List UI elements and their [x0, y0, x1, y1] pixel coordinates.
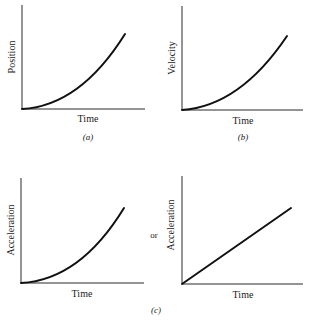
panel-a: Position Time (a) [6, 5, 145, 142]
acceleration-line [182, 208, 291, 284]
position-curve [22, 34, 125, 109]
acceleration-curve [21, 208, 124, 283]
y-axis-label: Acceleration [165, 199, 176, 250]
x-axis-label: Time [233, 115, 254, 126]
y-axis-label: Velocity [166, 41, 177, 74]
kinematics-figure: Position Time (a) Velocity Time (b) Acce… [0, 0, 310, 323]
panel-b: Velocity Time (b) [166, 6, 303, 142]
y-axis-label: Position [6, 41, 17, 74]
caption-b: (b) [238, 132, 249, 142]
x-axis-label: Time [78, 113, 99, 124]
caption-c: (c) [151, 305, 161, 315]
caption-a: (a) [83, 132, 94, 142]
panel-c-right: Acceleration Time [165, 176, 303, 300]
x-axis-label: Time [233, 289, 254, 300]
y-axis-label: Acceleration [5, 204, 16, 255]
x-axis-label: Time [72, 288, 93, 299]
or-label: or [150, 230, 158, 240]
velocity-curve [182, 36, 287, 110]
panel-c-left: Acceleration Time [5, 178, 144, 299]
